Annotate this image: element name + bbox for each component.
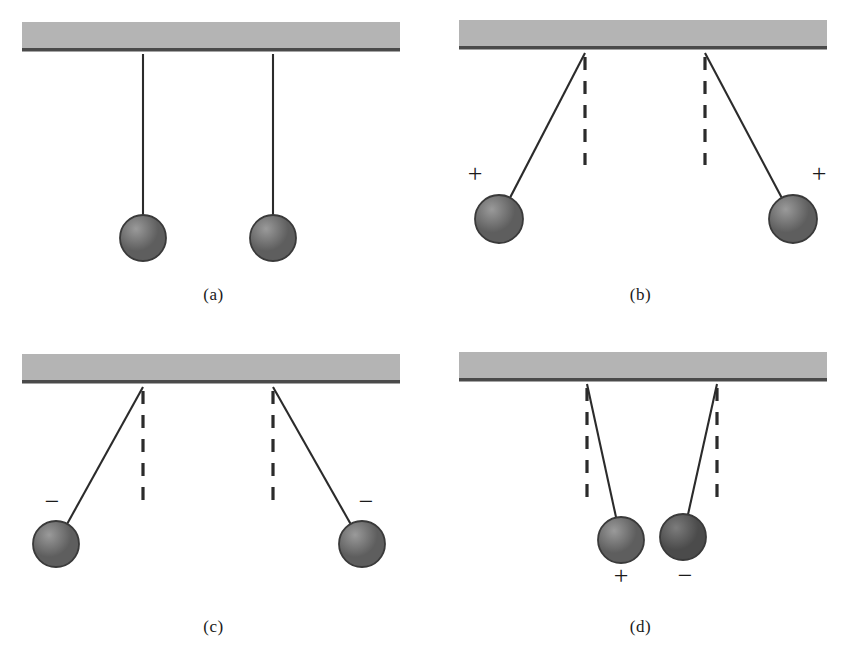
charge-sign-left: − — [45, 487, 60, 516]
ceiling-bar — [22, 354, 400, 380]
ceiling-bar-edge — [459, 46, 827, 50]
pendulum-ball-left — [120, 215, 166, 261]
panel-c: −−(c) — [0, 332, 427, 664]
pendulum-ball-left — [33, 521, 79, 567]
pendulum-string-left — [587, 384, 621, 540]
panel-label-c: (c) — [0, 617, 427, 637]
charge-sign-left: + — [468, 159, 483, 188]
charge-sign-right: + — [812, 159, 827, 188]
ceiling-bar — [459, 20, 827, 46]
pendulum-ball-right — [339, 521, 385, 567]
panel-label-b: (b) — [427, 285, 853, 305]
charge-sign-left: + — [614, 561, 629, 590]
ceiling-bar-edge — [22, 380, 400, 384]
ceiling-bar — [22, 22, 400, 48]
pendulum-ball-left — [475, 195, 523, 243]
pendulum-string-left — [56, 387, 143, 544]
ceiling-bar-edge — [22, 48, 400, 52]
pendulum-string-left — [499, 53, 585, 219]
panel-d: +−(d) — [427, 332, 853, 664]
panel-a: (a) — [0, 0, 427, 332]
panel-b: ++(b) — [427, 0, 853, 332]
panel-label-d: (d) — [427, 617, 853, 637]
figure-canvas: (a)++(b)−−(c)+−(d) — [0, 0, 853, 664]
ceiling-bar — [459, 352, 827, 378]
pendulum-ball-left — [598, 517, 644, 563]
charge-sign-right: − — [678, 561, 693, 590]
pendulum-ball-right — [250, 215, 296, 261]
pendulum-ball-right — [660, 514, 706, 560]
ceiling-bar-edge — [459, 378, 827, 382]
panel-label-a: (a) — [0, 285, 427, 305]
charge-sign-right: − — [359, 487, 374, 516]
pendulum-string-right — [705, 53, 793, 219]
pendulum-ball-right — [769, 195, 817, 243]
pendulum-string-right — [273, 387, 362, 544]
